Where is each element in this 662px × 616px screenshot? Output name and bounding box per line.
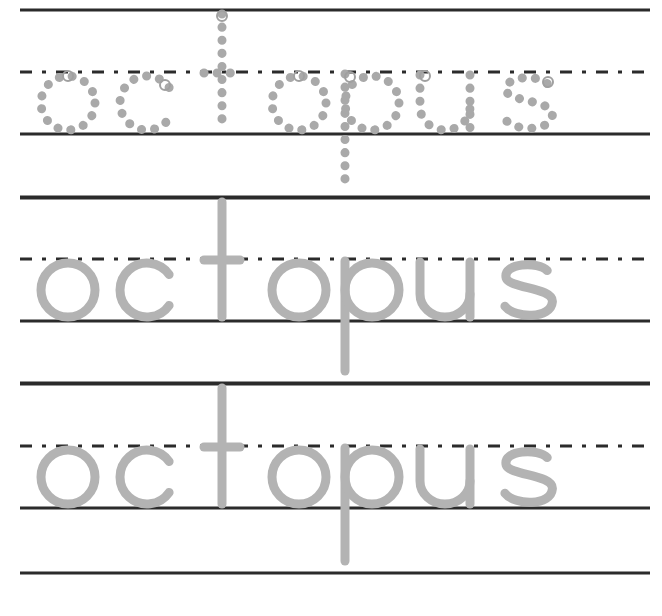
letter-u [420, 449, 470, 504]
handwriting-worksheet [0, 0, 662, 616]
letter-s [505, 77, 553, 128]
trace-word [41, 388, 552, 561]
letter-c [120, 76, 170, 130]
letter-c [120, 450, 169, 504]
letter-c [120, 263, 169, 317]
letter-p [345, 261, 399, 371]
letter-t [204, 202, 240, 317]
letter-s [505, 265, 552, 316]
letter-s [505, 452, 552, 503]
letter-o [41, 263, 95, 317]
letter-o [41, 450, 95, 504]
trace-word [41, 202, 552, 371]
letter-u [420, 71, 470, 130]
letter-o [272, 71, 326, 130]
trace-word [41, 11, 553, 185]
writing-row-3 [20, 384, 650, 573]
letter-o [272, 263, 326, 317]
letter-o [41, 71, 95, 130]
writing-row-1 [20, 10, 650, 197]
letter-p [345, 448, 399, 561]
letter-o [272, 450, 326, 504]
letter-p [345, 72, 399, 185]
letter-u [420, 262, 470, 317]
writing-row-2 [20, 198, 650, 383]
letter-t [204, 388, 240, 504]
